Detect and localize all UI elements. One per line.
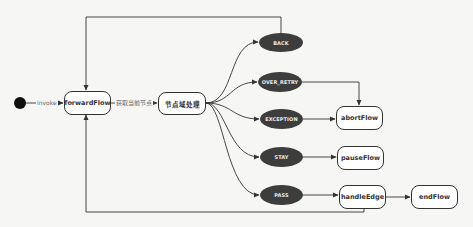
edge-to-pass	[206, 103, 259, 195]
start-node	[14, 97, 26, 109]
node-handle-edge[interactable]: handleEdge	[339, 185, 386, 209]
edge-back-loop	[86, 17, 281, 90]
edge-label-invoke: invoke	[36, 99, 58, 107]
node-forward-flow[interactable]: forwardFlow	[64, 91, 111, 115]
state-stay[interactable]: STAY	[260, 147, 303, 167]
state-over-retry[interactable]: OVER_RETRY	[258, 72, 302, 92]
node-end-flow[interactable]: endFlow	[411, 185, 458, 209]
edge-handle-loop	[86, 115, 364, 212]
edge-to-over-retry	[206, 82, 257, 103]
state-exception[interactable]: EXCEPTION	[260, 109, 303, 129]
node-domain-processing[interactable]: 节点域处理	[158, 92, 206, 115]
state-back[interactable]: BACK	[259, 33, 303, 52]
edge-label-get-current-node: 获取当前节点	[115, 99, 153, 107]
edge-to-exception	[206, 103, 259, 119]
edge-over-retry-abort	[302, 82, 359, 105]
node-abort-flow[interactable]: abortFlow	[336, 106, 383, 130]
edge-to-back	[206, 42, 258, 103]
node-pause-flow[interactable]: pauseFlow	[337, 146, 384, 170]
state-pass[interactable]: PASS	[260, 185, 303, 205]
state-diagram: invoke 获取当前节点 forwardFlow 节点域处理 BACK OVE…	[0, 0, 473, 227]
